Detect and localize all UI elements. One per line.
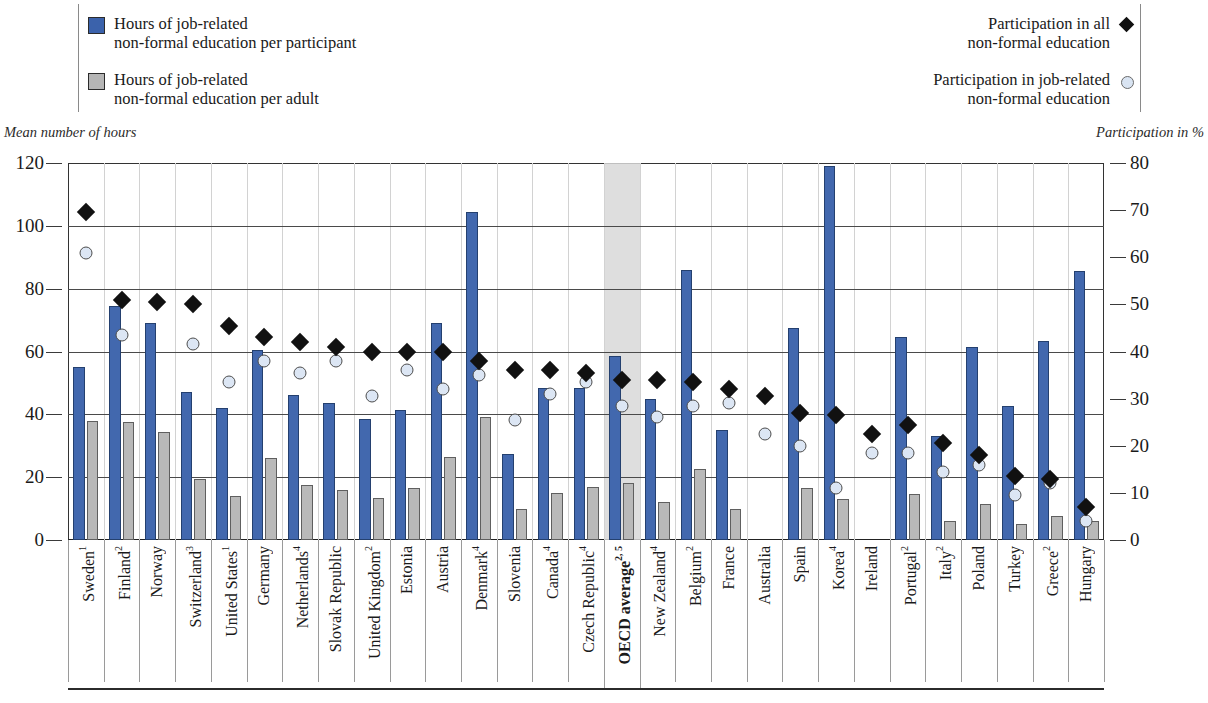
bar-hours-per-participant xyxy=(145,323,157,540)
bar-hours-per-participant xyxy=(181,392,193,540)
category-label: France xyxy=(720,546,738,590)
bar-hours-per-participant xyxy=(574,388,586,540)
gridline xyxy=(68,289,1104,290)
category-tick xyxy=(961,540,962,682)
right-tick-mark xyxy=(1110,304,1126,305)
category-label-text: Spain xyxy=(791,546,808,582)
marker-participation-jobrelated xyxy=(687,399,700,412)
category-footnote: 3 xyxy=(184,546,195,551)
category-tick xyxy=(640,540,641,688)
category-label-text: Austria xyxy=(434,546,451,593)
bar-hours-per-adult xyxy=(194,479,206,540)
bar-hours-per-participant xyxy=(73,367,85,540)
category-tick xyxy=(461,540,462,682)
category-label: Netherlands4 xyxy=(291,546,312,628)
category-label-text: Switzerland xyxy=(187,551,204,627)
bar-hours-per-adult xyxy=(730,509,742,540)
bar-hours-per-adult xyxy=(230,496,242,540)
category-tick xyxy=(390,540,391,682)
category-tick xyxy=(747,540,748,682)
bar-hours-per-adult xyxy=(551,493,563,540)
bar-hours-per-adult xyxy=(444,457,456,540)
bar-hours-per-adult xyxy=(980,504,992,540)
bar-hours-per-adult xyxy=(623,483,635,540)
category-label: Slovenia xyxy=(506,546,524,602)
gridline xyxy=(68,226,1104,227)
right-tick-mark xyxy=(1110,163,1126,164)
right-tick-mark xyxy=(1110,493,1126,494)
left-tick-mark xyxy=(46,352,62,353)
legend-line1: Hours of job-related xyxy=(114,14,248,33)
category-label-text: Italy xyxy=(938,551,955,580)
bar-hours-per-participant xyxy=(716,430,728,540)
category-label-text: Australia xyxy=(756,546,773,605)
category-tick xyxy=(282,540,283,682)
category-footnote: 2 xyxy=(1041,546,1052,551)
right-tick-mark xyxy=(1110,399,1126,400)
category-tick xyxy=(211,540,212,682)
category-label-text: Poland xyxy=(970,546,987,590)
bar-hours-per-participant xyxy=(216,408,228,540)
category-label-text: Ireland xyxy=(863,546,880,591)
light-circle-icon xyxy=(1119,73,1136,90)
category-label: Switzerland3 xyxy=(184,546,205,627)
bar-hours-per-adult xyxy=(694,469,706,540)
category-footnote: 1 xyxy=(220,546,231,551)
bar-hours-per-adult xyxy=(909,494,921,540)
left-axis-caption: Mean number of hours xyxy=(4,124,137,141)
category-label-text: United States xyxy=(223,551,240,637)
bar-hours-per-adult xyxy=(944,521,956,540)
bottom-rule xyxy=(68,688,1104,690)
bar-hours-per-participant xyxy=(966,347,978,540)
category-label-text: Slovenia xyxy=(506,546,523,602)
category-footnote: 4 xyxy=(648,546,659,551)
gridline xyxy=(68,352,1104,353)
right-tick-mark xyxy=(1110,352,1126,353)
category-footnote: 2 xyxy=(684,546,695,551)
category-footnote: 4 xyxy=(470,546,481,551)
legend-line1: Participation in all xyxy=(988,14,1110,33)
category-footnote: 1 xyxy=(77,546,88,551)
category-label: OECD average2, 5 xyxy=(613,546,634,665)
category-label: Italy2 xyxy=(934,546,955,580)
category-label-text: Czech Republic xyxy=(580,551,597,653)
bar-hours-per-adult xyxy=(658,502,670,540)
marker-participation-jobrelated xyxy=(615,399,628,412)
marker-participation-jobrelated xyxy=(187,338,200,351)
category-tick xyxy=(139,540,140,682)
category-label: Ireland xyxy=(863,546,881,591)
legend-item-hours-per-adult: Hours of job-related non-formal educatio… xyxy=(88,70,319,108)
category-tick xyxy=(997,540,998,682)
category-label: Poland xyxy=(970,546,988,590)
category-footnote: 2 xyxy=(934,546,945,551)
legend-line2: non-formal education xyxy=(968,89,1111,108)
right-tick-mark xyxy=(1110,446,1126,447)
bar-hours-per-participant xyxy=(395,410,407,540)
right-tick-mark xyxy=(1110,540,1126,541)
bar-hours-per-participant xyxy=(538,388,550,540)
marker-participation-jobrelated xyxy=(437,383,450,396)
category-label: United States1 xyxy=(220,546,241,637)
bar-hours-per-adult xyxy=(158,432,170,540)
category-footnote: 4 xyxy=(291,546,302,551)
bar-hours-per-participant xyxy=(1038,341,1050,540)
bar-hours-per-participant xyxy=(323,403,335,540)
marker-participation-jobrelated xyxy=(901,446,914,459)
category-label-text: New Zealand xyxy=(652,551,669,637)
marker-participation-jobrelated xyxy=(1008,489,1021,502)
grey-square-icon xyxy=(88,73,105,90)
category-tick xyxy=(354,540,355,682)
marker-participation-jobrelated xyxy=(758,427,771,440)
category-tick xyxy=(425,540,426,682)
category-tick xyxy=(104,540,105,682)
category-tick xyxy=(1068,540,1069,682)
category-footnote: 2 xyxy=(113,546,124,551)
category-label: Finland2 xyxy=(113,546,134,600)
category-tick xyxy=(890,540,891,682)
category-tick xyxy=(604,540,605,688)
bar-hours-per-adult xyxy=(301,485,313,540)
bar-hours-per-adult xyxy=(87,421,99,540)
bar-hours-per-participant xyxy=(359,419,371,540)
bar-hours-per-participant xyxy=(931,436,943,540)
left-tick-mark xyxy=(46,289,62,290)
